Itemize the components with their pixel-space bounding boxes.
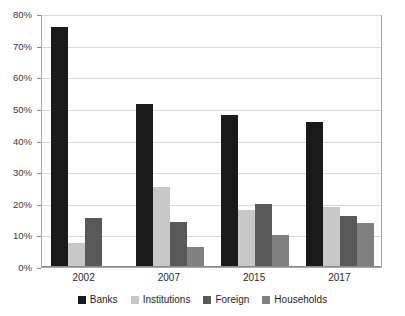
y-axis-tick-label: 30% bbox=[13, 168, 32, 178]
bar-group bbox=[51, 16, 119, 267]
x-axis-tick-label: 2015 bbox=[243, 271, 265, 285]
bar-households-2017 bbox=[357, 223, 374, 267]
legend-item-foreign[interactable]: Foreign bbox=[203, 294, 249, 306]
x-axis-tick-label: 2017 bbox=[328, 271, 350, 285]
y-axis-tick-label: 40% bbox=[13, 137, 32, 147]
legend-item-label: Households bbox=[274, 294, 327, 306]
bars-layer bbox=[42, 16, 381, 267]
legend-item-label: Foreign bbox=[215, 294, 249, 306]
bar-banks-2007 bbox=[136, 104, 153, 267]
legend-item-label: Institutions bbox=[143, 294, 191, 306]
bar-institutions-2015 bbox=[238, 210, 255, 267]
bar-institutions-2002 bbox=[68, 243, 85, 267]
x-axis-tick-label: 2002 bbox=[73, 271, 95, 285]
y-axis-tick-label: 20% bbox=[13, 200, 32, 210]
bar-group bbox=[221, 16, 289, 267]
bar-group bbox=[306, 16, 374, 267]
bar-institutions-2007 bbox=[153, 187, 170, 267]
bar-chart: 0%10%20%30%40%50%60%70%80% 2002200720152… bbox=[0, 0, 405, 316]
plot-area bbox=[41, 15, 382, 268]
bar-households-2007 bbox=[187, 247, 204, 267]
bar-households-2015 bbox=[272, 235, 289, 267]
bar-banks-2017 bbox=[306, 122, 323, 267]
y-axis-tick-mark bbox=[37, 268, 41, 269]
legend-swatch-icon bbox=[203, 296, 211, 304]
bar-foreign-2017 bbox=[340, 216, 357, 267]
x-axis-tick-label: 2007 bbox=[158, 271, 180, 285]
bar-banks-2015 bbox=[221, 115, 238, 267]
y-axis-tick-label: 60% bbox=[13, 73, 32, 83]
bar-banks-2002 bbox=[51, 27, 68, 267]
legend-swatch-icon bbox=[131, 296, 139, 304]
y-axis-tick-label: 0% bbox=[18, 263, 32, 273]
bar-group bbox=[136, 16, 204, 267]
y-axis: 0%10%20%30%40%50%60%70%80% bbox=[0, 0, 38, 290]
bar-foreign-2002 bbox=[85, 218, 102, 267]
legend-item-banks[interactable]: Banks bbox=[78, 294, 118, 306]
legend-item-households[interactable]: Households bbox=[262, 294, 327, 306]
legend-item-label: Banks bbox=[90, 294, 118, 306]
y-axis-tick-label: 70% bbox=[13, 42, 32, 52]
legend-swatch-icon bbox=[78, 296, 86, 304]
chart-legend: BanksInstitutionsForeignHouseholds bbox=[0, 292, 405, 308]
x-axis-baseline bbox=[42, 266, 381, 267]
legend-item-institutions[interactable]: Institutions bbox=[131, 294, 191, 306]
bar-foreign-2015 bbox=[255, 204, 272, 267]
y-axis-tick-label: 10% bbox=[13, 231, 32, 241]
y-axis-tick-label: 50% bbox=[13, 105, 32, 115]
legend-swatch-icon bbox=[262, 296, 270, 304]
bar-foreign-2007 bbox=[170, 222, 187, 267]
x-axis: 2002200720152017 bbox=[41, 271, 382, 287]
bar-institutions-2017 bbox=[323, 207, 340, 267]
y-axis-tick-label: 80% bbox=[13, 10, 32, 20]
